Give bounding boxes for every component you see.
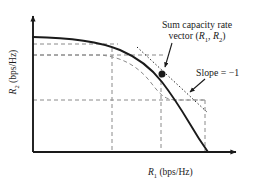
y-axis-label: R2 (bps/Hz) bbox=[8, 36, 20, 108]
sum-capacity-line2-pre: vector ( bbox=[169, 30, 199, 41]
sum-capacity-line2-post: ) bbox=[222, 30, 225, 41]
x-axis-label-unit: (bps/Hz) bbox=[159, 167, 192, 177]
capacity-region-figure: R2 (bps/Hz) R1 (bps/Hz) Sum capacity rat… bbox=[0, 0, 263, 188]
horizontal-guide-lines bbox=[33, 44, 205, 100]
annotation-arrow-slope bbox=[190, 79, 205, 92]
tangent-line bbox=[137, 47, 208, 113]
slope-annotation: Slope = −1 bbox=[196, 68, 239, 79]
annotation-arrow-sum-capacity bbox=[165, 43, 172, 67]
sum-capacity-annotation: Sum capacity rate vector (R1, R2) bbox=[146, 20, 248, 43]
y-axis-label-var: R bbox=[8, 89, 18, 95]
sum-capacity-point bbox=[159, 71, 166, 78]
x-axis-label: R1 (bps/Hz) bbox=[148, 167, 193, 179]
inner-region-boundary bbox=[33, 55, 205, 100]
y-axis-label-unit: (bps/Hz) bbox=[8, 50, 18, 83]
sum-capacity-line1: Sum capacity rate bbox=[162, 19, 232, 30]
capacity-boundary-curve bbox=[33, 37, 208, 152]
x-axis-label-sub: 1 bbox=[154, 172, 157, 179]
y-axis-label-sub: 2 bbox=[13, 85, 20, 88]
